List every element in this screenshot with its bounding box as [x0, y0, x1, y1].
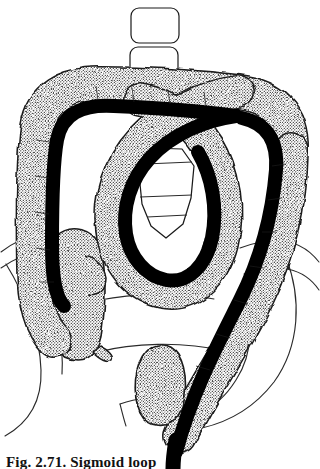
figure-caption-area: Fig. 2.71. Sigmoid loop [0, 455, 320, 469]
colonoscopy-illustration [0, 0, 320, 469]
figure-root: Fig. 2.71. Sigmoid loop [0, 0, 320, 469]
figure-caption: Fig. 2.71. Sigmoid loop [6, 455, 156, 469]
vertebra-upper [131, 8, 179, 43]
